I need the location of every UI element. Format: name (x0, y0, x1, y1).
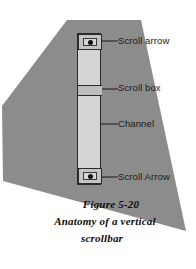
scroll-arrow-up-icon (83, 38, 97, 46)
figure-caption: Figure 5-20 Anatomy of a vertical scroll… (0, 196, 196, 247)
callout-label-scroll-arrow-top: Scroll arrow (118, 35, 169, 46)
scroll-arrow-down-icon (83, 172, 97, 180)
caption-line-title-part-2: scrollbar (0, 230, 196, 247)
caption-line-figure-number: Figure 5-20 (0, 196, 196, 213)
callout-label-channel: Channel (118, 118, 154, 129)
figure-anatomy-of-a-vertical-scrollbar: Scroll arrow Scroll box Channel Scroll A… (0, 0, 196, 269)
callout-label-scroll-arrow-bottom: Scroll Arrow (118, 171, 170, 182)
callout-label-scroll-box: Scroll box (118, 82, 161, 93)
scroll-arrow-up-button[interactable] (78, 34, 102, 50)
arrow-glyph-icon (88, 174, 93, 179)
scrollbar-scroll-box[interactable] (78, 85, 102, 96)
caption-line-title-part-1: Anatomy of a vertical (0, 213, 196, 230)
vertical-scrollbar[interactable] (77, 33, 101, 185)
scroll-arrow-down-button[interactable] (78, 168, 102, 184)
scrollbar-channel[interactable] (78, 49, 100, 169)
arrow-glyph-icon (88, 40, 93, 45)
